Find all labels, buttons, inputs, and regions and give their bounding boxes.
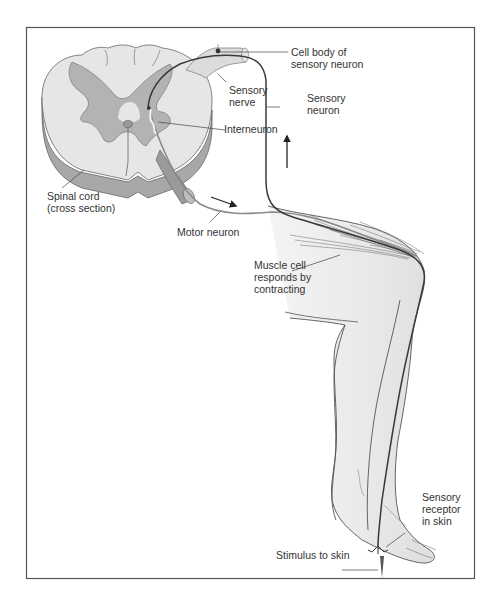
label-motor-neuron: Motor neuron <box>177 226 239 238</box>
label-sensory-receptor: Sensory receptor in skin <box>422 491 461 527</box>
label-receptor-line3: in skin <box>422 515 461 527</box>
reflex-arc-diagram: Cell body of sensory neuron Sensory nerv… <box>0 0 499 608</box>
label-sensory-neuron-line1: Sensory <box>307 92 346 104</box>
label-cell-body-line2: sensory neuron <box>291 58 363 70</box>
label-sensory-nerve-line1: Sensory <box>229 84 268 96</box>
label-spinal-cord: Spinal cord (cross section) <box>47 190 115 214</box>
label-muscle-cell: Muscle cell responds by contracting <box>254 259 311 295</box>
label-sensory-neuron: Sensory neuron <box>307 92 346 116</box>
label-sensory-nerve: Sensory nerve <box>229 84 268 108</box>
label-interneuron: Interneuron <box>224 123 278 135</box>
label-muscle-line1: Muscle cell <box>254 259 311 271</box>
label-sensory-nerve-line2: nerve <box>229 96 268 108</box>
sensory-cell-body <box>216 49 221 54</box>
label-receptor-line1: Sensory <box>422 491 461 503</box>
synapse-dot <box>147 106 151 110</box>
label-muscle-line2: responds by <box>254 271 311 283</box>
label-receptor-line2: receptor <box>422 503 461 515</box>
label-spinal-cord-line1: Spinal cord <box>47 190 115 202</box>
label-cell-body: Cell body of sensory neuron <box>291 46 363 70</box>
label-stimulus: Stimulus to skin <box>276 549 350 561</box>
label-cell-body-line1: Cell body of <box>291 46 363 58</box>
label-spinal-cord-line2: (cross section) <box>47 202 115 214</box>
label-sensory-neuron-line2: neuron <box>307 104 346 116</box>
label-muscle-line3: contracting <box>254 283 311 295</box>
